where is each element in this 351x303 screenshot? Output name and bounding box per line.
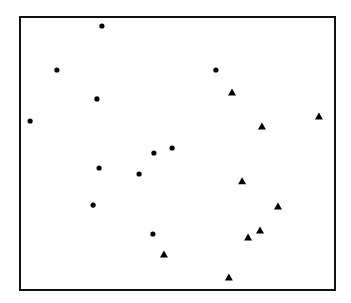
triangle-marker (244, 234, 252, 241)
circle-marker (91, 203, 96, 208)
plot-frame (20, 17, 335, 290)
circle-marker (213, 67, 218, 72)
triangle-marker (274, 202, 282, 209)
circle-marker (150, 231, 155, 236)
triangle-marker (258, 122, 266, 129)
scatter-plot (0, 0, 351, 303)
data-points (28, 23, 323, 280)
circle-marker (28, 118, 33, 123)
triangle-marker (256, 226, 264, 233)
triangle-marker (228, 89, 236, 96)
triangle-marker (238, 177, 246, 184)
circle-marker (170, 145, 175, 150)
circle-marker (99, 23, 104, 28)
circle-marker (151, 150, 156, 155)
circle-marker (54, 67, 59, 72)
circle-marker (97, 165, 102, 170)
circle-marker (94, 96, 99, 101)
triangle-marker (160, 250, 168, 257)
triangle-marker (315, 113, 323, 120)
circle-marker (137, 171, 142, 176)
triangle-marker (225, 273, 233, 280)
